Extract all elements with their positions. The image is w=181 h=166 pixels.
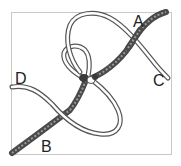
label-a: A [133,14,144,30]
light-rope [12,13,168,134]
label-c: C [153,73,165,89]
label-d: D [15,71,27,87]
label-b: B [41,139,52,155]
